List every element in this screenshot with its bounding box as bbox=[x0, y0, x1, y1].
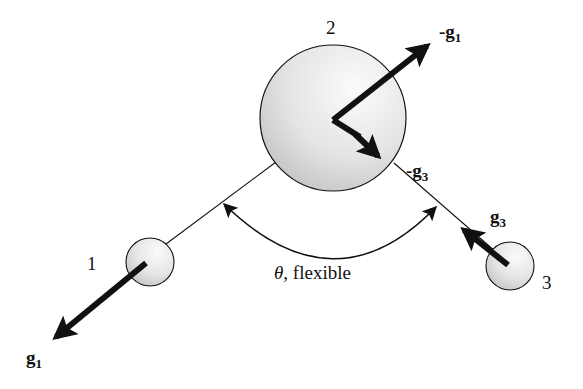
svg-text:-g1: -g1 bbox=[439, 21, 461, 45]
svg-text:-g3: -g3 bbox=[406, 160, 429, 184]
angle-label: θ, flexible bbox=[274, 262, 351, 283]
bead-1-label: 1 bbox=[87, 253, 97, 274]
svg-text:g1: g1 bbox=[26, 347, 42, 371]
bead-1 bbox=[126, 238, 174, 286]
svg-text:θ, flexible: θ, flexible bbox=[274, 262, 351, 283]
svg-text:g3: g3 bbox=[490, 206, 507, 230]
vector-g1-arrow bbox=[56, 263, 146, 337]
bead-2-label: 2 bbox=[326, 17, 336, 38]
vector-g3-label: g3 bbox=[490, 206, 507, 230]
bead-3-label: 3 bbox=[542, 272, 552, 293]
vector-g1-label: g1 bbox=[26, 347, 42, 371]
bead-3 bbox=[486, 242, 534, 290]
vector-neg-g1-label: -g1 bbox=[439, 21, 461, 45]
angle-arc bbox=[224, 204, 436, 259]
three-bead-diagram: 2 1 3 θ, flexible g1 -g1 -g3 g3 bbox=[0, 0, 583, 389]
vector-neg-g3-label: -g3 bbox=[406, 160, 429, 184]
bond-1-2 bbox=[166, 162, 276, 244]
